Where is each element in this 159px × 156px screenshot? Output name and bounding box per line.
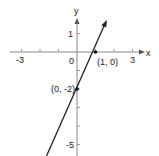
coordinate-plane: -3 0 3 1 -5 y x (1, 0) (0, -2) — [0, 0, 159, 156]
x-tick-label-0: 0 — [69, 56, 74, 66]
point-label-0-neg2: (0, -2) — [51, 84, 75, 94]
point-0-neg2 — [75, 87, 79, 91]
x-tick-label-3: 3 — [130, 55, 135, 65]
point-label-1-0: (1, 0) — [97, 57, 118, 67]
y-axis-label: y — [74, 6, 79, 16]
y-tick-label-neg5: -5 — [66, 140, 74, 150]
y-axis-arrow-icon — [75, 18, 80, 24]
x-tick-label-neg3: -3 — [16, 55, 24, 65]
x-axis-arrow-icon — [139, 50, 145, 55]
y-tick-label-1: 1 — [68, 29, 73, 39]
point-1-0 — [94, 50, 98, 54]
line-arrow-icon — [101, 20, 107, 28]
x-axis-label: x — [146, 48, 151, 58]
